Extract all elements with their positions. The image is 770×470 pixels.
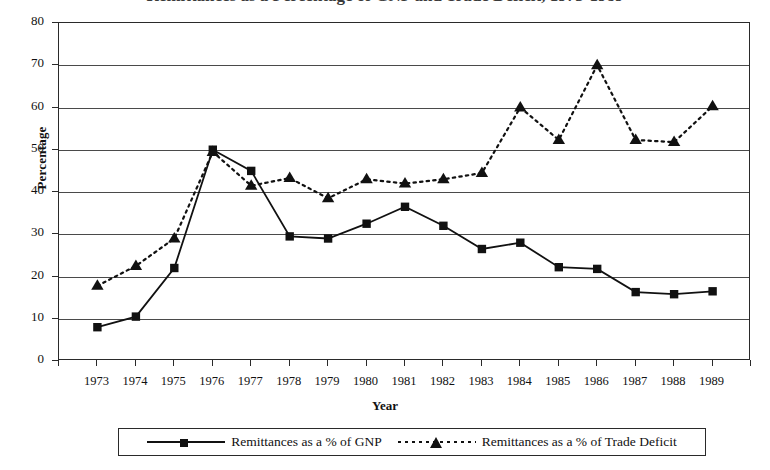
triangle-marker [630, 134, 642, 145]
y-tick-label: 10 [10, 309, 44, 325]
square-marker [516, 239, 524, 247]
triangle-marker [91, 279, 103, 290]
square-marker [170, 264, 178, 272]
square-marker [439, 222, 447, 230]
y-tick-label: 80 [10, 13, 44, 29]
triangle-marker [591, 59, 603, 69]
triangle-marker [360, 173, 372, 184]
legend-item-trade-deficit: Remittances as a % of Trade Deficit [398, 434, 677, 450]
y-tick-label: 0 [10, 351, 44, 367]
square-marker [324, 234, 332, 242]
y-tick-label: 60 [10, 98, 44, 114]
square-marker [362, 220, 370, 228]
series-line [97, 65, 712, 285]
chart-figure: Remittances as a Percentage of GNP and T… [0, 0, 770, 470]
x-axis-label: Year [0, 398, 770, 414]
x-tick-label: 1989 [688, 374, 736, 389]
square-marker [478, 245, 486, 253]
square-marker [593, 265, 601, 273]
series-layer [59, 23, 749, 359]
square-marker [286, 232, 294, 240]
triangle-marker [207, 145, 219, 156]
square-marker [555, 263, 563, 271]
legend-swatch-solid-square [147, 435, 225, 449]
series-svg [59, 23, 751, 361]
square-marker [708, 287, 716, 295]
triangle-marker [130, 259, 142, 270]
y-tick-label: 30 [10, 224, 44, 240]
square-marker [401, 203, 409, 211]
square-marker [670, 290, 678, 298]
square-marker [247, 167, 255, 175]
square-marker [632, 288, 640, 296]
y-tick-label: 70 [10, 55, 44, 71]
triangle-marker [476, 167, 488, 178]
legend-item-gnp: Remittances as a % of GNP [147, 434, 381, 450]
y-axis-label: Percentage [34, 98, 50, 218]
series-trade-deficit [91, 59, 719, 290]
series-line [97, 150, 712, 327]
square-marker [93, 323, 101, 331]
y-tick-label: 50 [10, 140, 44, 156]
square-marker [132, 312, 140, 320]
legend-label-trade-deficit: Remittances as a % of Trade Deficit [482, 434, 677, 450]
triangle-marker [514, 101, 526, 112]
chart-title-cropped: Remittances as a Percentage of GNP and T… [0, 0, 770, 6]
y-tick-label: 20 [10, 267, 44, 283]
legend-swatch-dotted-triangle [398, 435, 476, 449]
series-gnp [93, 146, 717, 332]
triangle-marker [553, 134, 565, 145]
triangle-marker [706, 100, 718, 111]
plot-area [58, 22, 750, 360]
triangle-marker-icon [430, 437, 442, 448]
legend-label-gnp: Remittances as a % of GNP [231, 434, 381, 450]
square-marker-icon [180, 439, 188, 447]
triangle-marker [168, 232, 180, 243]
triangle-marker [284, 172, 296, 183]
y-tick-label: 40 [10, 182, 44, 198]
chart-legend: Remittances as a % of GNP Remittances as… [118, 428, 706, 456]
